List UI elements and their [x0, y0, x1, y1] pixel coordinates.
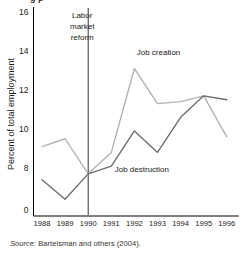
y-axis-title-group: Percent of total employment — [6, 57, 16, 170]
destruction-label: Job destruction — [115, 165, 169, 174]
y-tick-label: 0 — [24, 205, 29, 215]
series-group — [42, 69, 227, 200]
y-tick-label: 12 — [19, 85, 29, 95]
x-axis: 198819891990199119921993199419951996 — [34, 216, 239, 228]
y-tick-label: 16 — [19, 7, 29, 17]
x-tick-label: 1994 — [172, 219, 189, 228]
source-note: Source: Bartelsman and others (2004). — [10, 239, 141, 248]
line-chart: 0810121416 19881989199019911992199319941… — [0, 0, 248, 234]
annotation-group: Job creationJob destruction — [115, 48, 181, 174]
chart-plot-area: 0810121416 19881989199019911992199319941… — [0, 0, 248, 234]
x-tick-label: 1990 — [80, 219, 97, 228]
labor-market-reform-label: reform — [71, 33, 94, 42]
x-tick-label: 1989 — [57, 219, 74, 228]
x-tick-label: 1996 — [218, 219, 235, 228]
series-line-job-creation — [42, 69, 227, 174]
labor-market-reform-label: market — [70, 22, 95, 31]
y-axis: 0810121416 — [19, 7, 33, 216]
y-tick-label: 14 — [19, 46, 29, 56]
labor-market-reform-label: Labor — [72, 11, 93, 20]
source-label: Source: — [10, 239, 36, 248]
y-tick-label: 8 — [24, 163, 29, 173]
x-tick-label: 1988 — [34, 219, 51, 228]
x-tick-label: 1992 — [126, 219, 143, 228]
x-tick-label: 1993 — [149, 219, 166, 228]
creation-label: Job creation — [137, 48, 181, 57]
y-tick-label: 10 — [19, 124, 29, 134]
event-marker-group: Labormarketreform — [70, 8, 95, 215]
x-tick-label: 1991 — [103, 219, 120, 228]
series-line-job-destruction — [42, 96, 227, 199]
x-tick-label: 1995 — [195, 219, 212, 228]
figure-container: g p 0810121416 1988198919901991199219931… — [0, 0, 248, 258]
source-citation: Bartelsman and others (2004). — [38, 239, 141, 248]
y-axis-title: Percent of total employment — [6, 57, 16, 170]
